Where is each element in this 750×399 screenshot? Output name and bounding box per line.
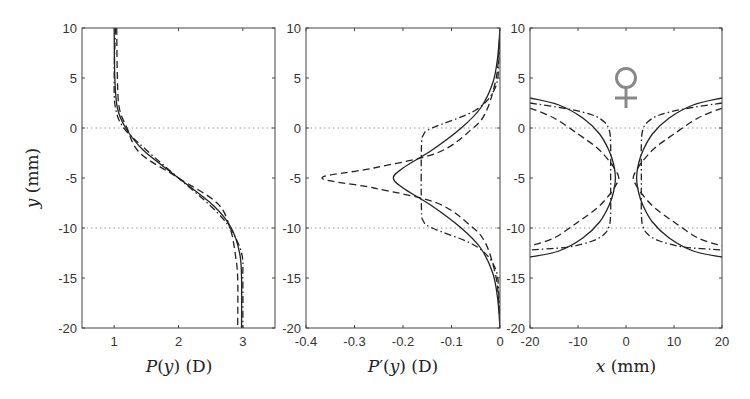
y-tick-label: -20 [58,321,77,336]
y-axis-label: y (mm) [22,148,42,210]
y-tick-label: -20 [282,321,301,336]
panel-power-derivative: -0.4-0.3-0.2-0.101050-5-10-15-20 [282,21,503,349]
x-tick-label: 1 [111,334,118,349]
svg-text:y (mm): y (mm) [22,148,42,210]
y-axis-label-var: y [22,198,42,209]
panel-lens-shape: -20-10010201050-5-10-15-20 [506,21,729,349]
x-tick-label: 10 [667,334,681,349]
x-tick-label: -0.1 [440,334,462,349]
y-axis-label-unit: (mm) [22,148,42,194]
y-tick-label: -5 [65,171,77,186]
y-tick-label: -20 [506,321,525,336]
y-tick-label: -5 [513,171,525,186]
y-tick-label: 5 [70,71,77,86]
y-tick-label: -10 [506,221,525,236]
y-tick-label: 5 [518,71,525,86]
x-tick-label: -0.2 [392,334,414,349]
curve-solid [393,28,500,328]
x-axis-label-left: P(y) (D) [145,356,213,376]
y-tick-label: -15 [282,271,301,286]
x-tick-label: -0.4 [295,334,317,349]
x-tick-label: 0 [622,334,629,349]
curve-solid [530,98,615,257]
y-tick-label: 0 [518,121,525,136]
curve-dashed [322,28,500,328]
venus-symbol-icon [615,69,637,109]
y-tick-label: 5 [294,71,301,86]
x-tick-label: 3 [239,334,246,349]
y-tick-label: -10 [282,221,301,236]
x-tick-label: 20 [715,334,729,349]
y-tick-label: -10 [58,221,77,236]
curve-dashed [117,28,238,328]
curve-dashed [633,108,722,246]
x-tick-label: 0 [496,334,503,349]
x-tick-label: -10 [569,334,588,349]
y-tick-label: -15 [58,271,77,286]
curve-dashed [530,108,619,246]
x-tick-label: 2 [175,334,182,349]
y-tick-label: 10 [287,21,301,36]
curve-dash-dot [421,28,500,328]
y-tick-label: -15 [506,271,525,286]
y-tick-label: 0 [70,121,77,136]
axes-frame [530,28,722,328]
y-tick-label: 0 [294,121,301,136]
y-tick-label: -5 [289,171,301,186]
figure: 1231050-5-10-15-20 -0.4-0.3-0.2-0.101050… [0,0,750,399]
x-axis-label-middle: P′(y) (D) [367,356,439,376]
x-tick-label: -0.3 [343,334,365,349]
x-axis-label-right: x (mm) [596,356,657,376]
panel-power-profile: 1231050-5-10-15-20 [58,21,275,349]
y-tick-label: 10 [63,21,77,36]
axes-frame [306,28,500,328]
curve-dash-dot [114,28,243,328]
curve-solid [637,98,722,257]
y-tick-label: 10 [511,21,525,36]
x-tick-label: -20 [521,334,540,349]
